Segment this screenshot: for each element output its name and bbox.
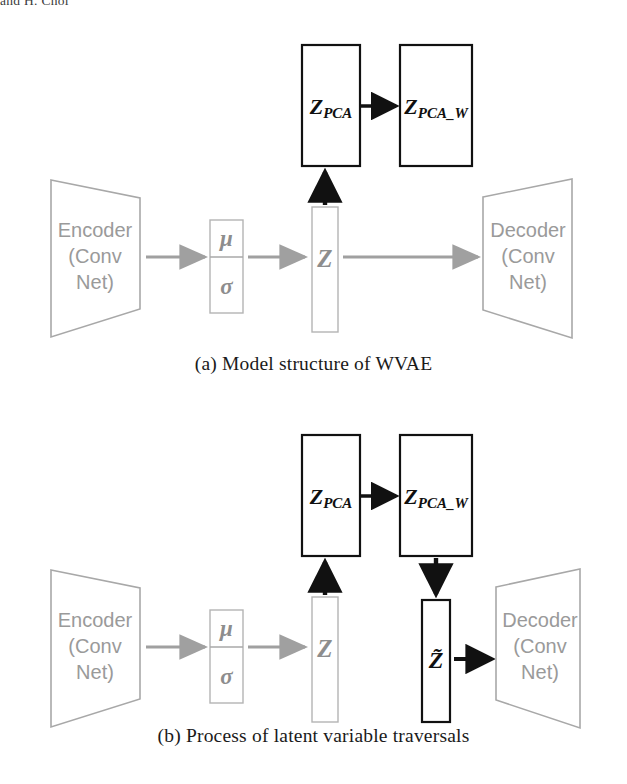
z-pca-w-label: ZPCA_W — [403, 484, 469, 511]
z-pca-w-label-main: Z — [403, 484, 417, 509]
z-pca-label-sub: PCA — [323, 105, 352, 121]
sigma-label: σ — [220, 664, 233, 689]
z-pca-w-label-sub: PCA_W — [418, 495, 470, 511]
encoder-label-line2: (Conv — [68, 245, 121, 267]
figure-a-diagram: Encoder (Conv Net) μ σ Z ZPCA — [0, 30, 627, 385]
encoder-label-line3: Net) — [76, 661, 114, 683]
z-tilde-label: Z̃ — [428, 647, 444, 673]
z-label: Z — [316, 245, 332, 272]
encoder-label-line2: (Conv — [68, 635, 121, 657]
encoder-label-line3: Net) — [76, 271, 114, 293]
z-pca-w-label: ZPCA_W — [403, 94, 469, 121]
figure-a-caption: (a) Model structure of WVAE — [0, 353, 627, 375]
figure-page: and H. Choi Encoder (Conv Net) μ σ — [0, 0, 627, 784]
z-pca-label-sub: PCA — [323, 495, 352, 511]
z-pca-label: ZPCA — [309, 484, 353, 511]
figure-b-caption: (b) Process of latent variable traversal… — [0, 725, 627, 747]
encoder-label-line1: Encoder — [58, 609, 133, 631]
sigma-label: σ — [220, 274, 233, 299]
decoder-label-line1: Decoder — [502, 609, 578, 631]
z-label: Z — [316, 635, 332, 662]
z-pca-label: ZPCA — [309, 94, 353, 121]
decoder-label-line3: Net) — [521, 661, 559, 683]
mu-label: μ — [219, 226, 233, 251]
figure-a-model-structure: Encoder (Conv Net) μ σ Z ZPCA — [0, 30, 627, 385]
z-pca-label-main: Z — [309, 484, 323, 509]
decoder-label-line2: (Conv — [501, 245, 554, 267]
z-pca-label-main: Z — [309, 94, 323, 119]
encoder-label-line1: Encoder — [58, 219, 133, 241]
decoder-label-line1: Decoder — [490, 219, 566, 241]
z-pca-w-label-main: Z — [403, 94, 417, 119]
decoder-label-line3: Net) — [509, 271, 547, 293]
figure-b-latent-traversals: Encoder (Conv Net) μ σ Z ZPCA — [0, 420, 627, 780]
decoder-label-line2: (Conv — [513, 635, 566, 657]
running-header: and H. Choi — [0, 0, 300, 9]
mu-label: μ — [219, 616, 233, 641]
z-pca-w-label-sub: PCA_W — [418, 105, 470, 121]
